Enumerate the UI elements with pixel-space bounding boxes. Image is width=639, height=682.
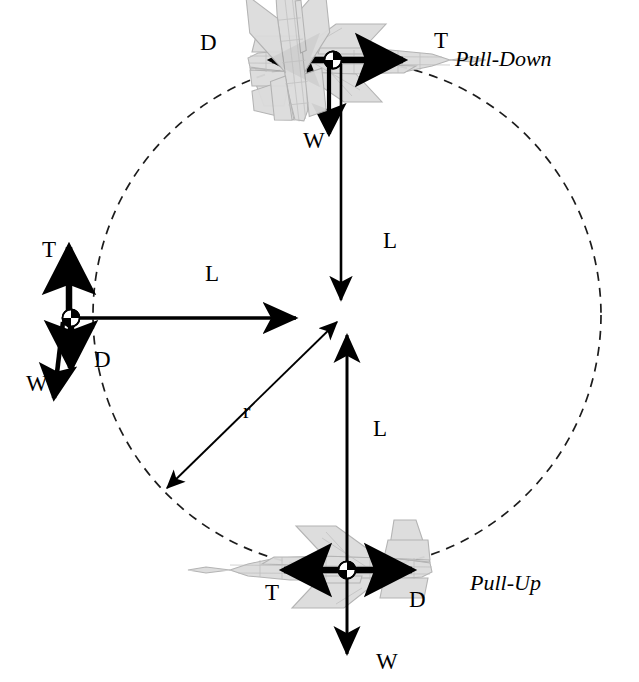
force-label-left-thrust: T — [42, 238, 56, 261]
force-label-bottom-weight: W — [376, 650, 398, 673]
phase-label-pull-up: Pull-Up — [470, 572, 541, 594]
force-label-bottom-lift: L — [373, 417, 387, 440]
aircraft-bottom-upright — [188, 520, 432, 608]
diagram-canvas — [0, 0, 639, 682]
force-label-top-drag: D — [200, 31, 217, 54]
force-label-left-weight: W — [26, 372, 48, 395]
radius-label: r — [243, 400, 250, 422]
cg-marker-bottom — [338, 561, 356, 579]
cg-marker-top — [324, 51, 342, 69]
vertical-loop-force-diagram: D T W L T D W L T D W L r Pull-Down Pull… — [0, 0, 639, 682]
force-label-top-thrust: T — [434, 29, 448, 52]
cg-marker-left — [62, 309, 80, 327]
radius-arrow — [167, 322, 337, 488]
force-label-top-weight: W — [303, 129, 325, 152]
force-label-top-lift: L — [383, 229, 397, 252]
force-arrow-left-weight — [54, 322, 63, 398]
force-label-left-drag: D — [94, 348, 111, 371]
phase-label-pull-down: Pull-Down — [455, 48, 552, 70]
force-label-left-lift: L — [205, 262, 219, 285]
force-label-bottom-drag: D — [409, 588, 426, 611]
force-label-bottom-thrust: T — [265, 581, 279, 604]
